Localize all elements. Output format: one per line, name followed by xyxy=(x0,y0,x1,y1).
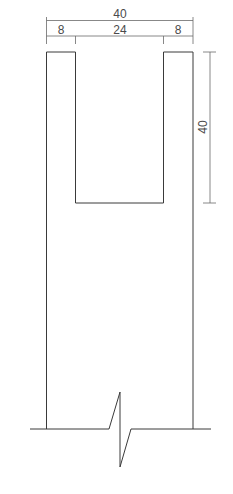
dim-label-right-leg: 8 xyxy=(175,23,182,37)
dim-label-notch-width: 24 xyxy=(113,23,127,37)
dim-label-left-leg: 8 xyxy=(58,23,65,37)
dim-label-notch-depth: 40 xyxy=(196,120,210,134)
dim-label-overall: 40 xyxy=(113,7,127,21)
technical-drawing: 40 8 24 8 40 xyxy=(0,0,233,494)
dimension-segments: 8 24 8 xyxy=(47,23,194,44)
dimension-notch-depth: 40 xyxy=(196,52,216,203)
section-outline xyxy=(47,52,194,429)
break-line xyxy=(30,392,211,467)
